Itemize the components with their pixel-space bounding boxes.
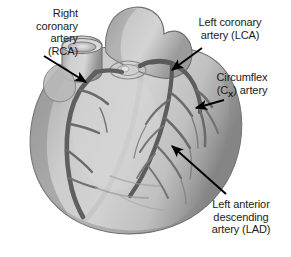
label-right-coronary-artery: Right coronary artery (RCA) [2, 7, 78, 57]
label-left-coronary-artery: Left coronary artery (LCA) [178, 16, 282, 41]
label-circumflex-line2-suffix: ) artery [233, 84, 267, 96]
label-left-anterior-descending-artery: Left anterior descending artery (LAD) [192, 198, 290, 236]
rca-proximal-segment [96, 71, 122, 73]
label-circumflex-artery: Circumflex(CX) artery [196, 71, 288, 101]
label-circumflex-line2-prefix: (C [217, 84, 228, 96]
ventricle-highlight [72, 70, 160, 190]
coronary-artery-diagram: Right coronary artery (RCA) Left coronar… [0, 0, 291, 257]
label-circumflex-line1: Circumflex [217, 71, 268, 83]
